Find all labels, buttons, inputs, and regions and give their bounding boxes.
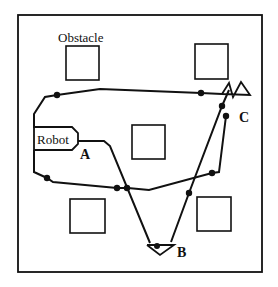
waypoint-dot	[114, 185, 120, 191]
point-a-label: A	[80, 147, 91, 162]
waypoint-dot	[219, 103, 225, 109]
waypoint-dot	[186, 190, 192, 196]
waypoint-dot	[44, 175, 50, 181]
point-c-label: C	[239, 110, 249, 125]
waypoint-dot	[209, 170, 215, 176]
obstacle-label: Obstacle	[58, 30, 104, 45]
waypoint-dot	[198, 90, 204, 96]
obstacle-center	[132, 125, 165, 159]
waypoint-dot	[223, 113, 229, 119]
point-b-label: B	[177, 245, 186, 260]
obstacle-top-right	[195, 44, 228, 79]
b-triangle-marker	[147, 245, 174, 255]
obstacle-bottom-left	[70, 199, 105, 233]
obstacle-top-left	[66, 46, 99, 80]
navigation-diagram: Obstacle Robot A B C	[0, 0, 278, 287]
path-top-loop	[34, 89, 222, 128]
waypoint-dot	[124, 185, 130, 191]
waypoint-dot	[54, 92, 60, 98]
obstacle-bottom-right	[197, 197, 231, 231]
waypoint-dot	[154, 243, 160, 249]
robot-label: Robot	[37, 132, 69, 147]
